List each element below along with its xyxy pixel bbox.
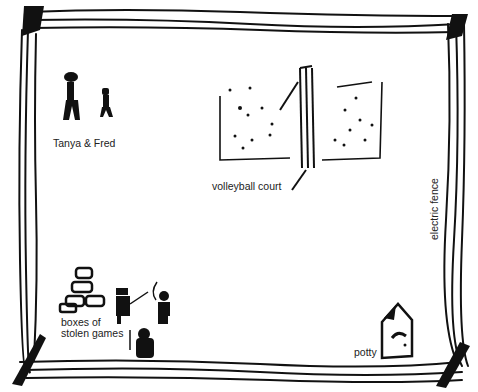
label-boxes-line2: stolen games: [61, 327, 123, 339]
pirates-drawing: [116, 282, 170, 358]
label-potty: potty: [354, 346, 377, 358]
label-electric-fence: electric fence: [428, 178, 440, 240]
fence-left: [19, 30, 36, 373]
fence-right: [444, 24, 468, 366]
post-top-left: [22, 6, 44, 36]
tanya-fred-figures: [63, 72, 113, 120]
label-tanya-fred: Tanya & Fred: [53, 137, 115, 149]
potty-drawing: [382, 304, 412, 358]
volleyball-court-drawing: [220, 66, 382, 190]
fence-top: [28, 10, 460, 33]
label-volleyball-court: volleyball court: [212, 180, 281, 192]
fence-bottom: [20, 360, 462, 382]
map-canvas: Tanya & Fred volleyball court electric f…: [0, 0, 478, 392]
boxes-drawing: [60, 268, 104, 312]
